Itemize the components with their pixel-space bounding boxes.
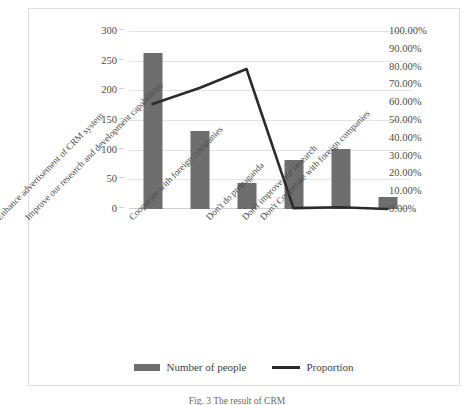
plot-area	[129, 31, 411, 209]
y-axis-right-tick: 20.00%	[389, 168, 451, 178]
y-axis-right-tick: 100.00%	[389, 26, 451, 36]
y-axis-left-tick: 50	[77, 174, 117, 184]
y-axis-right-tick: 50.00%	[389, 115, 451, 125]
legend-bar-swatch-icon	[134, 364, 160, 371]
y-axis-left-tick: 150	[77, 115, 117, 125]
y-tick-label: 300	[101, 25, 117, 36]
y-tick-label: 100	[101, 144, 117, 155]
figure-container: 300 250 200 150 100 50 0 100.00% 90.00% …	[0, 0, 474, 405]
y-axis-right-tick: 80.00%	[389, 62, 451, 72]
y-axis-right-tick: 70.00%	[389, 79, 451, 89]
chart-frame: 300 250 200 150 100 50 0 100.00% 90.00% …	[28, 8, 460, 386]
y-axis-right-tick: 90.00%	[389, 44, 451, 54]
y-axis-right-tick: 60.00%	[389, 97, 451, 107]
legend-line-swatch-icon	[272, 366, 300, 369]
y-axis-right-tick: 40.00%	[389, 133, 451, 143]
y-axis-right-tick: 0.00%	[389, 204, 451, 214]
chart-legend: Number of people Proportion	[29, 361, 459, 373]
y-tick-label: 50	[107, 173, 118, 184]
y-axis-right-tick: 10.00%	[389, 186, 451, 196]
y-tick-label: 150	[101, 114, 117, 125]
legend-label: Number of people	[166, 361, 246, 373]
legend-item-number-of-people[interactable]: Number of people	[134, 361, 246, 373]
proportion-polyline	[153, 69, 388, 209]
y-axis-left-tick: 200	[77, 85, 117, 95]
y-axis-left-tick: 100	[77, 145, 117, 155]
legend-label: Proportion	[306, 361, 353, 373]
figure-caption: Fig. 3 The result of CRM	[0, 396, 474, 405]
legend-item-proportion[interactable]: Proportion	[272, 361, 353, 373]
y-tick-label: 200	[101, 84, 117, 95]
y-tick-label: 250	[101, 55, 117, 66]
y-axis-left-tick: 250	[77, 56, 117, 66]
y-axis-left-tick: 0	[77, 204, 117, 214]
y-axis-left-tick: 300	[77, 26, 117, 36]
y-tick-label: 0	[112, 203, 117, 214]
proportion-line-series	[129, 31, 411, 209]
y-axis-right-tick: 30.00%	[389, 151, 451, 161]
